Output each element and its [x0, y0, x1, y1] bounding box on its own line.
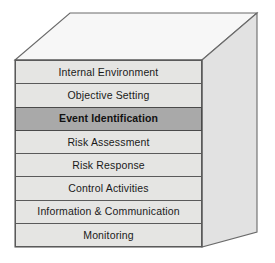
diagram-canvas: Internal Environment Objective Setting E… [0, 0, 275, 263]
component-row-event-identification[interactable]: Event Identification [15, 107, 202, 131]
component-label: Monitoring [80, 230, 137, 241]
component-row-information-communication[interactable]: Information & Communication [15, 200, 202, 224]
component-label: Objective Setting [65, 90, 153, 101]
component-row-risk-assessment[interactable]: Risk Assessment [15, 130, 202, 154]
component-row-monitoring[interactable]: Monitoring [15, 223, 202, 247]
component-label: Information & Communication [34, 206, 182, 217]
component-row-risk-response[interactable]: Risk Response [15, 153, 202, 177]
component-label: Risk Assessment [64, 137, 152, 148]
component-label: Internal Environment [56, 67, 162, 78]
component-label: Control Activities [65, 183, 151, 194]
component-row-internal-environment[interactable]: Internal Environment [15, 60, 202, 84]
component-row-control-activities[interactable]: Control Activities [15, 176, 202, 200]
component-stack: Internal Environment Objective Setting E… [15, 60, 202, 247]
component-row-objective-setting[interactable]: Objective Setting [15, 83, 202, 107]
component-label: Risk Response [69, 160, 148, 171]
component-label: Event Identification [56, 113, 161, 124]
